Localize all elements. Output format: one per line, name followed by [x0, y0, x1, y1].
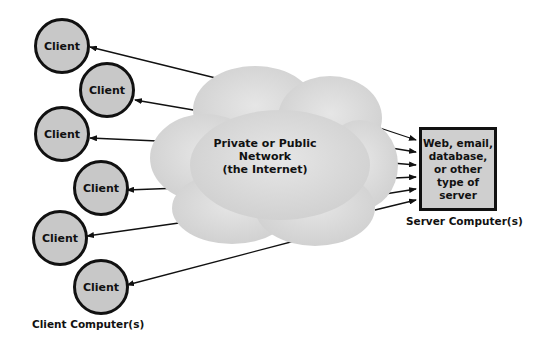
server-label-line: database,: [423, 150, 493, 163]
cloud-label-line: Network: [205, 150, 325, 163]
client-label: Client: [44, 40, 80, 53]
clients-caption: Client Computer(s): [32, 318, 144, 330]
server-label-line: or other: [423, 163, 493, 176]
client-label: Client: [89, 84, 125, 97]
client-node-6: Client: [73, 259, 129, 315]
client-label: Client: [44, 128, 80, 141]
client-node-3: Client: [34, 106, 90, 162]
client-node-5: Client: [32, 210, 88, 266]
server-label-line: type of: [423, 176, 493, 189]
cloud-label-line: (the Internet): [205, 163, 325, 176]
client-node-1: Client: [34, 18, 90, 74]
client-label: Client: [83, 281, 119, 294]
client-label: Client: [83, 182, 119, 195]
cloud-label-line: Private or Public: [205, 137, 325, 150]
network-cloud-label: Private or Public Network (the Internet): [205, 137, 325, 176]
client-label: Client: [42, 232, 78, 245]
server-box: Web, email, database, or other type of s…: [419, 127, 497, 211]
server-caption: Server Computer(s): [406, 215, 523, 227]
server-label-line: server: [423, 189, 493, 202]
client-node-2: Client: [79, 62, 135, 118]
server-label-line: Web, email,: [423, 137, 493, 150]
client-node-4: Client: [73, 160, 129, 216]
